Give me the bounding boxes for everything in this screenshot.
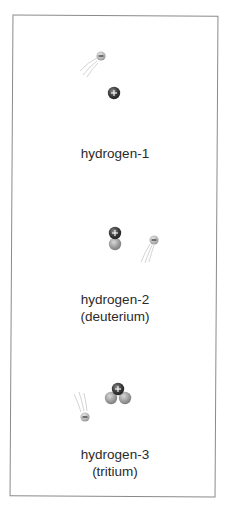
hydrogen-2-subtitle: (deuterium) (0, 309, 230, 325)
isotope-diagram (0, 0, 230, 505)
hydrogen-3-label: hydrogen-3 (0, 447, 230, 463)
electron-trail-icon (80, 58, 98, 77)
neutron-icon (109, 238, 121, 250)
electron-trail-icon (141, 244, 154, 263)
hydrogen-3-atom (74, 383, 131, 422)
electron-trail-icon (74, 392, 87, 412)
electron-icon (80, 412, 89, 421)
hydrogen-2-label: hydrogen-2 (0, 292, 230, 308)
hydrogen-1-label: hydrogen-1 (0, 146, 230, 162)
hydrogen-1-atom (80, 51, 120, 99)
electron-icon (96, 51, 105, 60)
electron-icon (149, 235, 158, 244)
proton-icon (108, 87, 120, 99)
hydrogen-3-subtitle: (tritium) (0, 464, 230, 480)
hydrogen-2-atom (109, 227, 159, 263)
proton-icon (109, 227, 121, 239)
proton-icon (112, 383, 124, 395)
